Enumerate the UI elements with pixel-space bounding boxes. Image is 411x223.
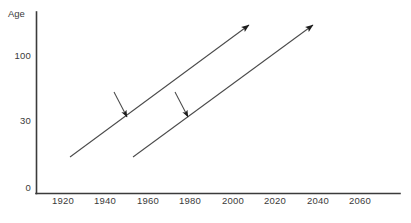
x-tick-label-1920: 1920 — [52, 196, 74, 206]
y-tick-label-100: 100 — [0, 51, 31, 61]
x-tick-label-1940: 1940 — [94, 196, 116, 206]
chart-plot-area — [0, 0, 411, 223]
x-tick-label-1980: 1980 — [179, 196, 201, 206]
x-tick-label-2020: 2020 — [264, 196, 286, 206]
x-tick-label-1960: 1960 — [137, 196, 159, 206]
pointer-arrow-1 — [114, 92, 127, 117]
y-tick-label-0: 0 — [0, 183, 31, 193]
x-tick-label-2000: 2000 — [222, 196, 244, 206]
pointer-arrow-2 — [175, 92, 188, 117]
x-tick-label-2040: 2040 — [307, 196, 329, 206]
y-axis-title: Age — [8, 9, 25, 19]
y-tick-label-30: 30 — [0, 116, 31, 126]
x-tick-label-2060: 2060 — [349, 196, 371, 206]
age-trend-chart: Age 100 30 0 1920 1940 1960 1980 2000 20… — [0, 0, 411, 223]
